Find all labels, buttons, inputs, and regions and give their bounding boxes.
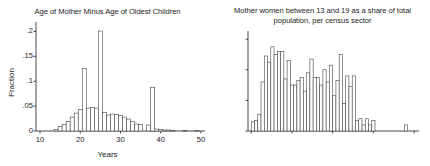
histogram-bar: [352, 76, 355, 131]
histogram-bar: [346, 76, 349, 131]
histogram-bar: [155, 129, 159, 131]
histogram-bar: [290, 85, 293, 131]
x-axis-label-left: Years: [0, 150, 215, 159]
y-tick-label: .05: [2, 101, 33, 110]
histogram-bar: [369, 125, 372, 131]
x-tick-label: 10: [25, 135, 55, 144]
histogram-bar: [66, 122, 70, 131]
y-tick-label: 0: [2, 126, 33, 135]
histogram-bar: [90, 108, 94, 131]
histogram-bar: [284, 79, 287, 131]
histogram-bar: [372, 120, 375, 131]
histogram-bar: [195, 131, 199, 132]
histogram-bar: [271, 47, 274, 131]
histogram-bar: [118, 116, 122, 131]
histogram-bar: [264, 56, 267, 131]
histogram-bar: [147, 125, 151, 131]
histogram-bar: [159, 130, 163, 131]
histogram-bar: [313, 77, 316, 131]
histogram-bar: [183, 131, 187, 132]
bar-group: [54, 31, 199, 131]
histogram-bar: [127, 119, 131, 131]
histogram-bar: [123, 117, 127, 131]
bar-group: [251, 47, 407, 131]
histogram-bar: [316, 77, 319, 131]
histogram-bar: [94, 108, 98, 131]
histogram-bar: [294, 85, 297, 131]
histogram-bar: [106, 115, 110, 131]
histogram-bar: [258, 114, 261, 131]
histogram-bar: [333, 96, 336, 131]
histogram-bar: [329, 65, 332, 131]
histogram-bar: [336, 80, 339, 131]
histogram-bar: [98, 31, 102, 131]
histogram-bar: [303, 91, 306, 131]
histogram-bar: [297, 80, 300, 131]
histogram-bar: [86, 108, 90, 131]
histogram-bar: [310, 59, 313, 131]
histogram-bar: [362, 125, 365, 131]
histogram-bar: [82, 68, 86, 131]
chart-panel-left: Age of Mother Minus Age of Oldest Childr…: [0, 0, 215, 166]
histogram-bar: [323, 70, 326, 131]
histogram-bar: [54, 130, 58, 131]
histogram-bar: [74, 113, 78, 131]
x-tick-label: 20: [65, 135, 95, 144]
histogram-bar: [251, 122, 254, 131]
histogram-bar: [131, 122, 135, 131]
histogram-bar: [277, 51, 280, 131]
x-tick-label: 50: [186, 135, 216, 144]
histogram-bar: [261, 82, 264, 131]
two-panel-histogram-figure: Age of Mother Minus Age of Oldest Childr…: [0, 0, 430, 166]
histogram-bar: [274, 54, 277, 131]
histogram-bar: [349, 87, 352, 131]
histogram-bar: [307, 73, 310, 131]
histogram-bar: [339, 54, 342, 131]
histogram-bar: [320, 85, 323, 131]
histogram-bar: [359, 119, 362, 131]
histogram-bar: [171, 131, 175, 132]
x-tick-label: 40: [146, 135, 176, 144]
histogram-plot-right: [215, 0, 430, 166]
histogram-bar: [167, 130, 171, 131]
histogram-bar: [58, 127, 62, 131]
y-tick-label: .1: [2, 76, 33, 85]
histogram-bar: [342, 103, 345, 131]
histogram-bar: [163, 130, 167, 131]
histogram-bar: [102, 113, 106, 131]
y-tick-label: .15: [2, 51, 33, 60]
histogram-bar: [114, 115, 118, 131]
x-tick-label: 30: [106, 135, 136, 144]
histogram-bar: [255, 120, 258, 131]
histogram-bar: [70, 117, 74, 131]
histogram-bar: [287, 61, 290, 131]
histogram-bar: [355, 120, 358, 131]
chart-panel-right: Mother women between 13 and 19 as a shar…: [215, 0, 430, 166]
histogram-bar: [135, 124, 139, 131]
histogram-bar: [404, 125, 407, 131]
histogram-bar: [365, 119, 368, 131]
y-tick-label: .2: [2, 26, 33, 35]
histogram-bar: [78, 110, 82, 131]
histogram-bar: [326, 82, 329, 131]
histogram-bar: [281, 51, 284, 131]
histogram-bar: [268, 62, 271, 131]
histogram-bar: [139, 125, 143, 131]
histogram-bar: [151, 87, 155, 131]
histogram-bar: [62, 125, 66, 131]
histogram-bar: [300, 77, 303, 131]
histogram-bar: [110, 114, 114, 131]
